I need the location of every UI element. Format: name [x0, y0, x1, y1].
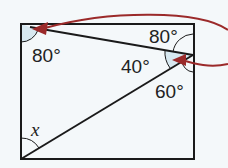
top-right-angle-label: 80°	[149, 26, 178, 47]
top-left-angle-label: 80°	[32, 45, 61, 66]
unknown-angle-x-label: x	[30, 119, 40, 140]
lower-diagonal-line	[21, 55, 193, 159]
arrow-to-top-left	[45, 15, 228, 30]
arrow-to-middle	[182, 60, 228, 66]
top-left-angle-shade	[21, 24, 38, 42]
middle-angle-label: 40°	[121, 56, 150, 77]
geometry-diagram: 80° 80° 40° 60° x	[0, 0, 228, 168]
lower-right-angle-label: 60°	[155, 81, 184, 102]
